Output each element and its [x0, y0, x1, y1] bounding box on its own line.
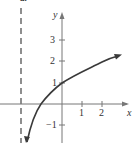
y-tick-label-m1: −1 [46, 120, 57, 130]
y-axis-arrow-icon [60, 12, 65, 19]
graph-canvas [0, 0, 134, 143]
x-tick-label-2: 2 [99, 108, 104, 118]
y-tick-label-1: 1 [52, 78, 57, 88]
x-axis-label: x [127, 108, 131, 118]
panel-label: a. [20, 0, 27, 3]
x-axis-arrow-icon [122, 102, 129, 107]
curve-end-arrow-icon [114, 54, 122, 60]
y-tick-label-2: 2 [50, 56, 55, 66]
log-curve [27, 56, 118, 142]
y-tick-label-3: 3 [50, 35, 55, 45]
y-axis-label: y [53, 10, 57, 20]
x-tick-label-1: 1 [79, 108, 84, 118]
